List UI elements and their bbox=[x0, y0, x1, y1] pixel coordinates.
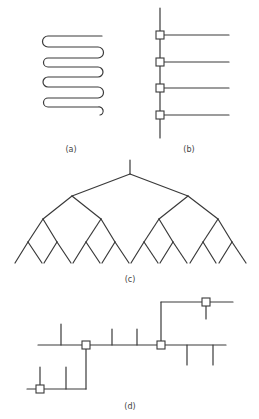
junction-box bbox=[157, 341, 165, 349]
panel-d-stepped-bus bbox=[27, 298, 233, 393]
label-d: (d) bbox=[124, 402, 135, 411]
figure-canvas: (a) (b) bbox=[0, 0, 259, 419]
tap-box bbox=[156, 84, 164, 92]
panel-a-serpentine bbox=[43, 36, 104, 115]
tap-box bbox=[156, 58, 164, 66]
panel-b-bus-taps bbox=[156, 8, 229, 138]
junction-box bbox=[36, 385, 44, 393]
junction-box bbox=[82, 341, 90, 349]
panel-c-binary-tree bbox=[15, 160, 246, 263]
label-b: (b) bbox=[183, 145, 194, 154]
label-c: (c) bbox=[125, 275, 136, 284]
label-a: (a) bbox=[65, 145, 76, 154]
junction-box bbox=[202, 298, 210, 306]
tap-box bbox=[156, 31, 164, 39]
tap-box bbox=[156, 111, 164, 119]
